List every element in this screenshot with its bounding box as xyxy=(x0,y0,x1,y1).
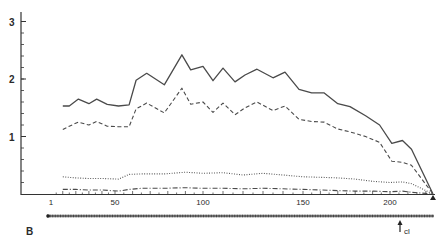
x-tick-label: 150 xyxy=(296,198,310,207)
convergence-marker-icon xyxy=(430,195,436,200)
y-tick-label: 1 xyxy=(9,132,15,143)
x-tick-label: 1 xyxy=(49,198,54,207)
y-tick-label: 2 xyxy=(9,74,15,85)
plot-lines xyxy=(63,55,433,194)
series-dash-dot xyxy=(63,188,433,194)
figure: 123 150100150200 cl B xyxy=(0,0,448,242)
series-dashed xyxy=(63,88,433,194)
x-tick-label: 50 xyxy=(111,198,120,207)
marker-label: cl xyxy=(404,227,410,236)
x-tick-label: 200 xyxy=(383,198,397,207)
x-tick-label: 100 xyxy=(196,198,210,207)
y-tick-label: 3 xyxy=(9,17,15,28)
series-solid xyxy=(63,55,433,194)
sequence-bar xyxy=(46,214,434,218)
panel-label: B xyxy=(26,226,33,237)
y-axis: 123 xyxy=(9,12,26,195)
arrow-up-icon xyxy=(398,220,403,225)
x-axis: 150100150200 xyxy=(21,191,435,207)
cl-arrow: cl xyxy=(398,220,411,236)
